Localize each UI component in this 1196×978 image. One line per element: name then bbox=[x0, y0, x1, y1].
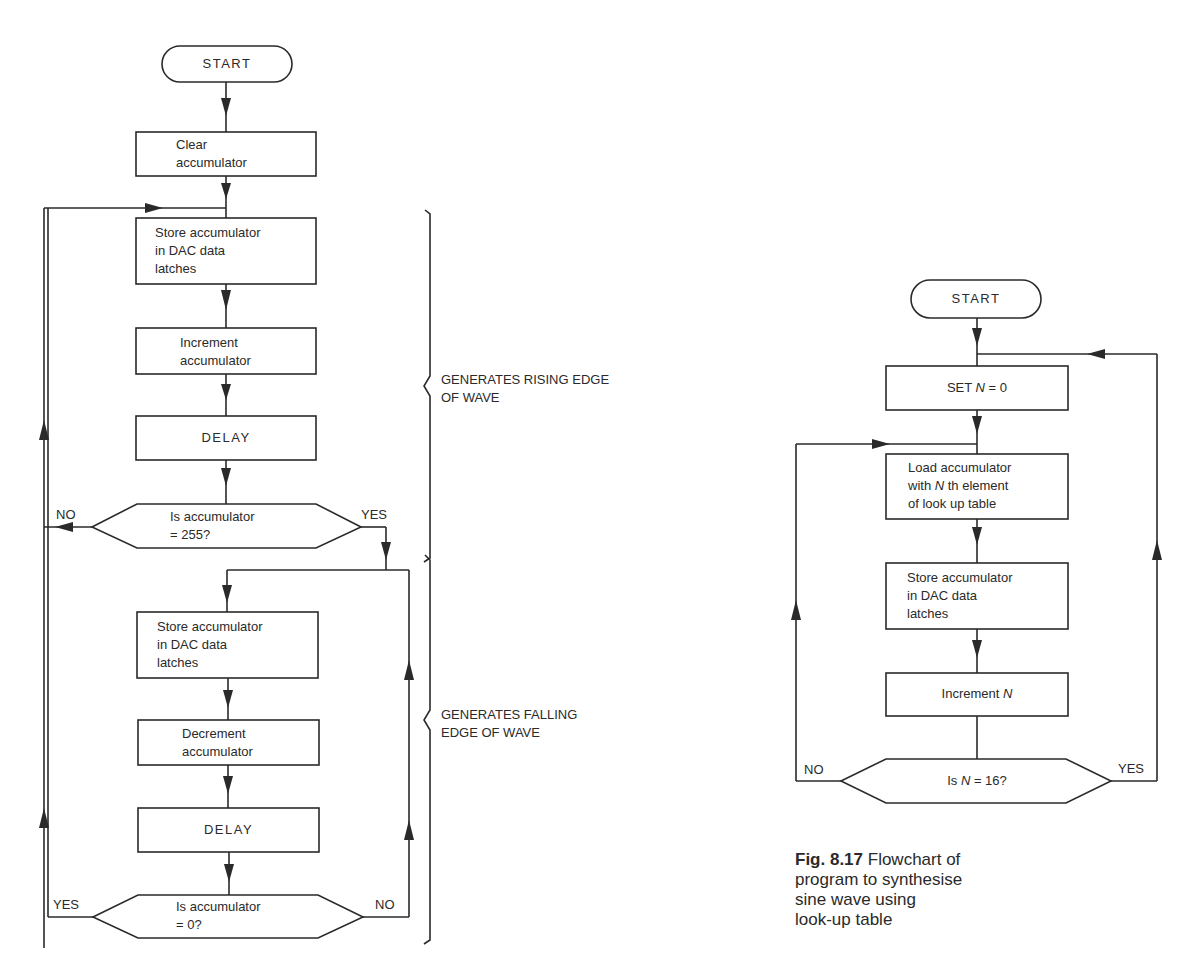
right-decision-prefix: Is bbox=[947, 773, 961, 788]
left-decision2-line2: = 0? bbox=[176, 916, 261, 934]
left-store2-line3: latches bbox=[157, 654, 263, 672]
right-decision-no: NO bbox=[804, 761, 824, 779]
right-load-line2-suffix: th element bbox=[944, 478, 1008, 493]
right-store-line3: latches bbox=[907, 605, 1013, 623]
brace-falling-line1: GENERATES FALLING bbox=[441, 706, 577, 724]
left-decision1-yes: YES bbox=[361, 506, 387, 524]
right-store-text: Store accumulator in DAC data latches bbox=[907, 569, 1013, 623]
left-store2-text: Store accumulator in DAC data latches bbox=[157, 618, 263, 672]
right-store-line1: Store accumulator bbox=[907, 569, 1013, 587]
left-clear-line1: Clear bbox=[176, 136, 247, 154]
left-store2-line2: in DAC data bbox=[157, 636, 263, 654]
right-decision-yes: YES bbox=[1118, 760, 1144, 778]
left-store1-line1: Store accumulator bbox=[155, 224, 261, 242]
left-decision1-line1: Is accumulator bbox=[170, 508, 255, 526]
brace-falling-label: GENERATES FALLING EDGE OF WAVE bbox=[441, 706, 577, 742]
left-store1-line2: in DAC data bbox=[155, 242, 261, 260]
right-load-line3: of look up table bbox=[908, 495, 1011, 513]
left-increment-text: Increment accumulator bbox=[180, 334, 251, 370]
caption-fig-label: Fig. 8.17 bbox=[795, 850, 863, 869]
figure-caption: Fig. 8.17 Flowchart of program to synthe… bbox=[795, 850, 1055, 930]
left-delay2-label: DELAY bbox=[138, 821, 319, 839]
brace-rising bbox=[424, 210, 430, 562]
left-decision2-no: NO bbox=[375, 896, 395, 914]
right-set-n-suffix: = 0 bbox=[985, 380, 1007, 395]
right-start-label: START bbox=[911, 290, 1041, 308]
right-load-text: Load accumulator with N th element of lo… bbox=[908, 459, 1011, 513]
right-load-line1: Load accumulator bbox=[908, 459, 1011, 477]
right-decision-suffix: = 16? bbox=[970, 773, 1007, 788]
right-decision-label: Is N = 16? bbox=[886, 772, 1068, 790]
right-store-line2: in DAC data bbox=[907, 587, 1013, 605]
right-load-line2-prefix: with bbox=[908, 478, 935, 493]
left-clear-text: Clear accumulator bbox=[176, 136, 247, 172]
right-set-n-var: N bbox=[976, 380, 985, 395]
caption-line4: look-up table bbox=[795, 910, 1055, 930]
right-set-n-prefix: SET bbox=[947, 380, 976, 395]
left-delay1-label: DELAY bbox=[136, 429, 316, 447]
left-start-label: START bbox=[162, 55, 292, 73]
left-increment-line2: accumulator bbox=[180, 352, 251, 370]
left-decrement-text: Decrement accumulator bbox=[182, 725, 253, 761]
caption-line1: Fig. 8.17 Flowchart of bbox=[795, 850, 1055, 870]
caption-line2: program to synthesise bbox=[795, 870, 1055, 890]
left-decision1-text: Is accumulator = 255? bbox=[170, 508, 255, 544]
left-decision1-line2: = 255? bbox=[170, 526, 255, 544]
brace-falling bbox=[424, 555, 430, 944]
right-load-line2: with N th element bbox=[908, 477, 1011, 495]
left-clear-line2: accumulator bbox=[176, 154, 247, 172]
right-load-line2-var: N bbox=[935, 478, 944, 493]
right-decision-var: N bbox=[961, 773, 970, 788]
left-decision1-no: NO bbox=[56, 506, 76, 524]
left-decision2-yes: YES bbox=[53, 896, 79, 914]
left-decrement-line2: accumulator bbox=[182, 743, 253, 761]
left-store2-line1: Store accumulator bbox=[157, 618, 263, 636]
left-store1-line3: latches bbox=[155, 260, 261, 278]
right-increment-var: N bbox=[1003, 686, 1012, 701]
left-decrement-line1: Decrement bbox=[182, 725, 253, 743]
left-decision2-line1: Is accumulator bbox=[176, 898, 261, 916]
caption-line3: sine wave using bbox=[795, 890, 1055, 910]
caption-text-line1: Flowchart of bbox=[863, 850, 960, 869]
left-store1-text: Store accumulator in DAC data latches bbox=[155, 224, 261, 278]
brace-rising-line2: OF WAVE bbox=[441, 389, 609, 407]
right-increment-prefix: Increment bbox=[942, 686, 1003, 701]
left-increment-line1: Increment bbox=[180, 334, 251, 352]
brace-falling-line2: EDGE OF WAVE bbox=[441, 724, 577, 742]
brace-rising-label: GENERATES RISING EDGE OF WAVE bbox=[441, 371, 609, 407]
left-decision2-text: Is accumulator = 0? bbox=[176, 898, 261, 934]
brace-rising-line1: GENERATES RISING EDGE bbox=[441, 371, 609, 389]
right-increment-label: Increment N bbox=[886, 685, 1068, 703]
right-set-n-label: SET N = 0 bbox=[886, 379, 1068, 397]
